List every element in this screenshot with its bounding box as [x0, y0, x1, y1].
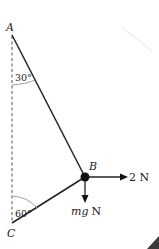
faint-arc [122, 28, 152, 52]
label-A: A [5, 21, 14, 34]
string-AB [12, 35, 85, 177]
angle-arc-C [12, 196, 37, 208]
corner-page-curl [147, 236, 159, 249]
label-B: B [88, 160, 97, 173]
arrowhead-right-icon [120, 174, 128, 181]
weight-unit: N [91, 205, 101, 218]
force-diagram: A B C 30° 60° 2 N mgN [0, 0, 159, 249]
label-C: C [7, 227, 16, 240]
angle-label-C: 60° [15, 208, 32, 219]
weight-symbol: mg [71, 205, 88, 218]
force-label-horizontal: 2 N [129, 171, 149, 184]
force-label-weight: mgN [71, 205, 101, 218]
arrowhead-down-icon [82, 195, 89, 203]
particle-B [81, 173, 90, 182]
angle-label-A: 30° [15, 72, 32, 83]
